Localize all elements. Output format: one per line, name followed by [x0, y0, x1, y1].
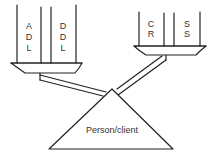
balance-scale-diagram: Person/client A D L D D L C R S S [0, 0, 217, 159]
fulcrum-triangle [49, 89, 173, 149]
svg-text:R: R [148, 29, 155, 39]
left-pan [11, 5, 82, 73]
left-pan-column-ddl: D D L [60, 21, 67, 53]
svg-text:L: L [26, 43, 31, 53]
svg-text:L: L [60, 43, 65, 53]
beam-right-arm [117, 55, 166, 95]
svg-text:D: D [60, 32, 67, 42]
right-pan [134, 12, 206, 55]
left-pan-column-adl: A D L [26, 21, 33, 53]
svg-text:S: S [184, 19, 190, 29]
fulcrum-label: Person/client [86, 125, 139, 135]
right-pan-column-ss: S S [184, 19, 190, 39]
svg-text:S: S [184, 29, 190, 39]
svg-text:D: D [26, 32, 33, 42]
right-pan-column-cr: C R [148, 19, 155, 39]
beam-left-arm [40, 71, 106, 96]
svg-text:A: A [26, 21, 32, 31]
svg-text:C: C [148, 19, 155, 29]
svg-text:D: D [60, 21, 67, 31]
